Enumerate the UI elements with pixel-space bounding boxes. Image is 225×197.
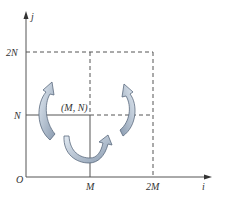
x-tick-2m: 2M: [146, 181, 160, 192]
symmetric-extension-diagram: j i O 2N N M 2M (M, N): [0, 0, 225, 197]
y-tick-n: N: [13, 110, 22, 121]
y-axis-arrowhead-icon: [24, 11, 29, 19]
origin-label: O: [16, 174, 23, 185]
y-tick-2n: 2N: [6, 47, 19, 58]
right-flip-arrow-icon: [120, 84, 135, 136]
y-axis: [24, 11, 29, 177]
x-axis-label: i: [202, 181, 205, 192]
diagram-svg: j i O 2N N M 2M (M, N): [0, 0, 225, 197]
x-tick-m: M: [85, 181, 95, 192]
point-label: (M, N): [61, 102, 88, 114]
left-flip-arrow-icon: [39, 82, 55, 140]
x-axis: [26, 175, 212, 180]
x-axis-arrowhead-icon: [204, 175, 212, 180]
y-axis-label: j: [29, 11, 34, 22]
bottom-flip-arrow-icon: [64, 135, 112, 163]
